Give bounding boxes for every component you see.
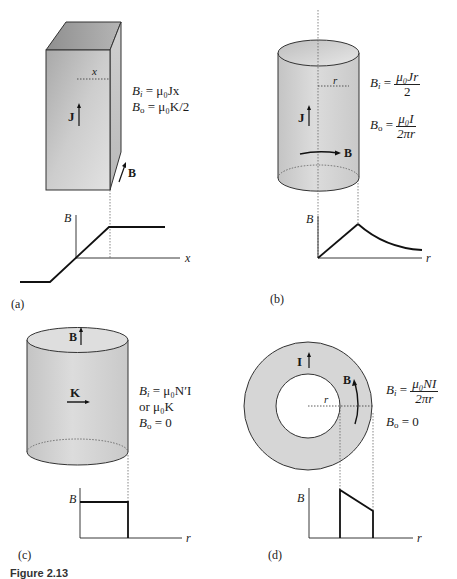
graph-c-x-label: r: [186, 532, 191, 544]
slab-b-label: B: [128, 167, 136, 179]
panel-a-label: (a): [11, 297, 24, 312]
graph-a-y-label: B: [64, 212, 71, 224]
cylinder-b-label: B: [344, 147, 352, 159]
panel-a-graph: [20, 190, 180, 282]
cylinder-j-label: J: [298, 111, 305, 124]
panel-d-inside-equation: Bi = μ₀NI2πr: [386, 377, 438, 406]
graph-d-x-label: r: [417, 532, 422, 544]
panel-d-label: (d): [268, 548, 282, 563]
panel-b-outside-equation: Bo = μ₀I2πr: [370, 112, 416, 141]
panel-c-inside-alt-equation: or μ₀K: [139, 399, 174, 415]
graph-b-y-label: B: [306, 213, 313, 225]
panel-d-outside-equation: Bo = 0: [386, 414, 419, 433]
panel-a-slab: [46, 22, 126, 190]
toroid-i-label: I: [297, 355, 302, 368]
toroid-r-label: r: [324, 394, 328, 405]
panel-c-outside-equation: Bo = 0: [139, 415, 172, 434]
panel-a-outside-equation: Bo = μ₀K/2: [132, 99, 189, 118]
solenoid-k-label: K: [70, 386, 80, 399]
panel-b-cylinder: [278, 10, 359, 258]
graph-a-x-label: x: [185, 252, 190, 264]
panel-b-label: (b): [270, 292, 284, 307]
panel-b-inside-equation: Bi = μ₀Jr2: [370, 70, 420, 99]
graph-b-x-label: r: [426, 252, 431, 264]
graph-c-y-label: B: [69, 493, 76, 505]
panel-c-graph: [80, 455, 182, 538]
toroid-b-label: B: [343, 374, 351, 386]
figure-caption: Figure 2.13: [10, 567, 68, 579]
panel-d-toroid: [244, 342, 373, 470]
graph-d-y-label: B: [297, 492, 304, 504]
panel-c-label: (c): [18, 548, 31, 563]
cylinder-r-label: r: [333, 75, 337, 86]
panel-b-graph: [318, 180, 422, 258]
solenoid-b-label: B: [69, 331, 77, 343]
slab-x-label: x: [92, 66, 97, 77]
slab-j-label: J: [68, 110, 75, 123]
